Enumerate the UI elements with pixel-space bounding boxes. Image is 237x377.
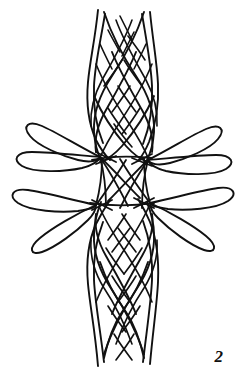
figure-number-label: 2 — [215, 348, 224, 365]
braid-strand — [120, 16, 132, 40]
braid-strand — [142, 14, 152, 144]
petal-loop — [150, 188, 233, 210]
braid-strand — [108, 30, 120, 52]
convergence-spokes — [90, 152, 154, 210]
lower-braid-column — [87, 199, 158, 366]
upper-braid-column — [87, 10, 158, 162]
braid-strand — [122, 108, 140, 134]
petal-group-right — [148, 127, 233, 251]
figure-container: 2 — [0, 0, 237, 377]
braid-strand — [100, 44, 112, 69]
petal-group-left — [13, 124, 100, 253]
petal-loop — [13, 190, 96, 212]
braid-strand — [128, 36, 145, 60]
braid-knot-diagram — [0, 0, 237, 377]
braid-strand — [108, 108, 126, 134]
